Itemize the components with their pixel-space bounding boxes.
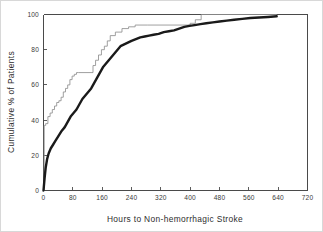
- x-tick-label: 720: [302, 194, 314, 201]
- y-tick-label: 60: [31, 81, 39, 88]
- x-tick-label: 160: [96, 194, 108, 201]
- figure-container: 080160240320400480560640720020406080100 …: [0, 0, 323, 232]
- series-thin-step-curve: [44, 15, 277, 191]
- x-tick-label: 480: [214, 194, 226, 201]
- x-tick-label: 320: [155, 194, 167, 201]
- axes-group: [44, 15, 308, 191]
- y-tick-label: 100: [27, 11, 39, 18]
- y-tick-label: 20: [31, 152, 39, 159]
- x-tick-label: 560: [243, 194, 255, 201]
- y-tick-label: 0: [35, 187, 39, 194]
- x-tick-label: 640: [272, 194, 284, 201]
- axis-frame-top-right: [44, 15, 308, 191]
- y-tick-label: 40: [31, 117, 39, 124]
- cumulative-percent-chart: 080160240320400480560640720020406080100 …: [0, 0, 323, 232]
- y-axis-title: Cumulative % of Patients: [6, 51, 16, 153]
- x-tick-label: 80: [69, 194, 77, 201]
- y-tick-label: 80: [31, 46, 39, 53]
- series-thick-curve: [44, 16, 277, 190]
- x-axis-title: Hours to Non-hemorrhagic Stroke: [107, 214, 243, 224]
- data-series-group: [44, 15, 277, 191]
- x-tick-label: 240: [126, 194, 138, 201]
- ticks-group: [44, 15, 308, 191]
- axis-spines: [44, 15, 308, 191]
- x-tick-label: 400: [184, 194, 196, 201]
- x-tick-label: 0: [42, 194, 46, 201]
- tick-labels-group: 080160240320400480560640720020406080100: [27, 11, 313, 201]
